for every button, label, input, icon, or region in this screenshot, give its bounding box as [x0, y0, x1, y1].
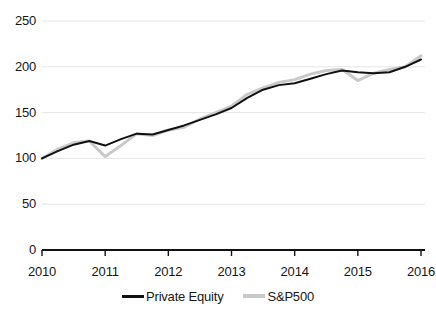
y-axis-tick-label: 150	[2, 106, 36, 119]
y-axis-tick-label: 0	[2, 243, 36, 256]
x-axis-tick-label: 2011	[82, 265, 128, 278]
x-axis-tick-label: 2012	[145, 265, 191, 278]
y-axis-tick-label: 100	[2, 151, 36, 164]
legend-label: Private Equity	[146, 290, 223, 303]
series-group	[42, 56, 421, 159]
line-swatch-light-icon	[243, 294, 265, 298]
chart-legend: Private EquityS&P500	[0, 286, 436, 306]
x-axis-tick-label: 2010	[19, 265, 65, 278]
y-axis-tick-label: 250	[2, 14, 36, 27]
y-axis-tick-label: 200	[2, 60, 36, 73]
x-axis-group	[42, 250, 425, 256]
x-axis-tick-label: 2014	[272, 265, 318, 278]
line-swatch-dark-icon	[122, 295, 144, 298]
gridlines-group	[42, 21, 425, 204]
y-axis-tick-label: 50	[2, 197, 36, 210]
x-axis-tick-label: 2013	[209, 265, 255, 278]
x-axis-tick-label: 2015	[335, 265, 381, 278]
series-line	[42, 59, 421, 158]
legend-label: S&P500	[267, 290, 314, 303]
x-axis-tick-label: 2016	[398, 265, 436, 278]
line-chart: 050100150200250 201020112012201320142015…	[0, 0, 436, 311]
legend-item[interactable]: Private Equity	[122, 290, 223, 303]
x-axis-tick-labels: 2010201120122013201420152016	[0, 265, 436, 285]
legend-item[interactable]: S&P500	[243, 290, 314, 303]
